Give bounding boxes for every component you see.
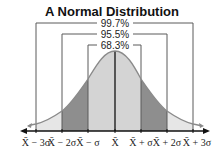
axis-labels: X̄ − 3σ X̄ − 2σ X̄ − σ X̄ X̄ + σ X̄ + 2σ… xyxy=(22,137,212,148)
axis-arrow-right-icon xyxy=(203,128,210,134)
axis-label-plus-1-sigma: X̄ + σ xyxy=(129,137,153,148)
diagram-title: A Normal Distribution xyxy=(45,4,179,19)
band-left-1to2-sigma xyxy=(62,79,88,131)
curve-arrow-left-icon xyxy=(27,123,32,128)
label-95-5-percent: 95.5% xyxy=(101,29,129,40)
axis-label-plus-3-sigma: X̄ + 3σ xyxy=(183,137,212,148)
band-right-1to2-sigma xyxy=(141,79,167,131)
axis-label-minus-1-sigma: X̄ − σ xyxy=(76,137,100,148)
label-68-3-percent: 68.3% xyxy=(101,40,129,51)
axis-label-mean: X̄ xyxy=(111,137,119,148)
curve-arrow-right-icon xyxy=(199,123,204,128)
label-99-7-percent: 99.7% xyxy=(101,18,129,29)
axis-label-plus-2-sigma: X̄ + 2σ xyxy=(153,137,182,148)
axis-label-minus-2-sigma: X̄ − 2σ xyxy=(48,137,77,148)
normal-distribution-diagram: A Normal Distribution 99.7% 95.5% 68.3% xyxy=(0,0,223,156)
axis-label-minus-3-sigma: X̄ − 3σ xyxy=(22,137,51,148)
axis-arrow-left-icon xyxy=(20,128,27,134)
